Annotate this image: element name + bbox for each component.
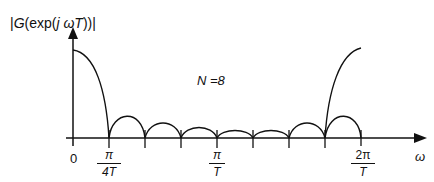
plot-title: |G(exp(j ωT))| — [10, 16, 96, 30]
n-annotation: N =8 — [197, 74, 225, 87]
x-axis-arrow-icon — [414, 133, 427, 143]
tick-label-2pi-over-t: 2π T — [351, 149, 375, 178]
title-g: G — [14, 15, 25, 31]
title-open: (exp( — [25, 15, 57, 31]
tick-label-pi-over-4t: π 4T — [97, 149, 121, 178]
omega-axis-label: ω — [415, 150, 425, 163]
title-j: j — [56, 15, 59, 31]
origin-label: 0 — [70, 152, 77, 165]
title-close: ))| — [83, 15, 96, 31]
tick-label-pi-over-t: π T — [209, 149, 225, 178]
response-curve — [73, 48, 361, 138]
title-omega-t: ωT — [63, 15, 82, 31]
